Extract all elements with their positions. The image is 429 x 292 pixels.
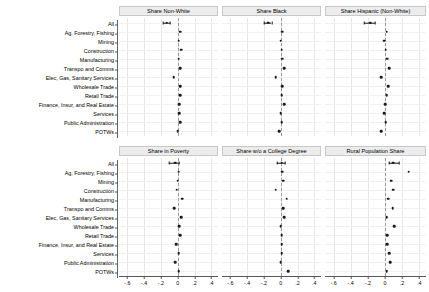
- confidence-interval-cap: [170, 21, 171, 24]
- y-axis-category-label: POTWs: [95, 131, 114, 136]
- y-axis-category-label: Transpo and Comms: [64, 67, 114, 72]
- data-point-marker: [274, 188, 277, 191]
- confidence-interval-cap: [374, 21, 375, 24]
- x-axis-tick-label: 0: [176, 280, 179, 286]
- zero-reference-line: [178, 18, 180, 136]
- panel-share-in-poverty: Share in Poverty -.6-.4-.20.2.4: [119, 146, 218, 286]
- data-point-marker: [279, 39, 282, 42]
- confidence-interval-cap: [264, 21, 265, 24]
- data-point-marker: [179, 94, 182, 97]
- y-axis-tick: [115, 228, 118, 229]
- y-axis-category-label: Construction: [84, 49, 114, 54]
- x-axis: -.6-.4-.20.2.4: [119, 276, 218, 288]
- x-axis-tick: [367, 276, 368, 279]
- y-axis-category-label: POTWs: [95, 271, 114, 276]
- x-axis-tick-label: .2: [192, 280, 196, 286]
- data-point-marker: [408, 170, 411, 173]
- plot-area: [119, 158, 218, 276]
- y-axis-tick: [115, 200, 118, 201]
- data-point-marker: [172, 76, 175, 79]
- data-point-marker: [180, 216, 183, 219]
- confidence-interval-cap: [162, 21, 163, 24]
- panel-title: Share Hispanic (Non-White): [325, 6, 426, 16]
- y-axis-tick: [115, 264, 118, 265]
- data-point-marker: [174, 261, 177, 264]
- x-axis-tick: [350, 276, 351, 279]
- data-point-marker: [280, 48, 283, 51]
- x-axis-tick: [280, 276, 281, 279]
- data-point-marker: [279, 225, 282, 228]
- y-axis-tick: [115, 273, 118, 274]
- plot-area: [222, 158, 321, 276]
- data-point-marker: [392, 161, 395, 164]
- x-axis-tick: [127, 276, 128, 279]
- y-axis-tick: [115, 209, 118, 210]
- coefficient-plot-figure: AllAg, Forestry, FishingMiningConstructi…: [0, 0, 429, 292]
- data-point-marker: [176, 130, 179, 133]
- data-point-marker: [178, 225, 181, 228]
- y-axis-tick: [115, 133, 118, 134]
- y-axis-tick: [115, 33, 118, 34]
- confidence-interval-cap: [169, 161, 170, 164]
- data-point-marker: [391, 207, 394, 210]
- data-point-marker: [380, 130, 383, 133]
- confidence-interval-cap: [277, 161, 278, 164]
- data-point-marker: [278, 130, 281, 133]
- panel-row-bottom: AllAg, Forestry, FishingMiningConstructi…: [0, 146, 429, 286]
- y-axis-tick: [115, 51, 118, 52]
- data-point-marker: [389, 261, 392, 264]
- data-point-marker: [174, 161, 177, 164]
- x-axis-tick-label: 0: [279, 280, 282, 286]
- x-axis-tick-label: -.2: [158, 280, 164, 286]
- y-axis-category-label: Retail Trade: [85, 234, 114, 239]
- data-point-marker: [173, 207, 176, 210]
- y-axis-labels-bottom: AllAg, Forestry, FishingMiningConstructi…: [0, 160, 118, 278]
- data-point-marker: [179, 67, 182, 70]
- data-point-marker: [179, 85, 182, 88]
- data-point-marker: [384, 121, 387, 124]
- y-axis-tick: [115, 24, 118, 25]
- data-point-marker: [280, 234, 283, 237]
- data-point-marker: [369, 21, 372, 24]
- data-point-marker: [392, 188, 395, 191]
- x-axis-tick-label: -.4: [141, 280, 147, 286]
- x-axis-tick: [230, 276, 231, 279]
- data-point-marker: [285, 198, 288, 201]
- y-axis-category-label: Finance, Insur, and Real Estate: [39, 104, 114, 109]
- x-axis-tick: [144, 276, 145, 279]
- confidence-interval-cap: [364, 21, 365, 24]
- y-axis-category-label: Wholesale Trade: [74, 225, 114, 230]
- y-axis-category-label: Construction: [84, 189, 114, 194]
- plot-area: [222, 18, 321, 136]
- data-point-marker: [177, 170, 180, 173]
- confidence-interval-cap: [178, 161, 179, 164]
- data-point-marker: [385, 270, 388, 273]
- x-axis-tick: [297, 276, 298, 279]
- data-point-marker: [177, 58, 180, 61]
- y-axis-tick: [115, 115, 118, 116]
- y-axis-tick: [115, 255, 118, 256]
- data-point-marker: [281, 30, 284, 33]
- confidence-interval-cap: [389, 161, 390, 164]
- x-axis-tick-label: -.2: [261, 280, 267, 286]
- x-axis-tick-label: .2: [400, 280, 404, 286]
- panel-rural-population-share: Rural Population Share -.6-.4-.20.2.4: [325, 146, 426, 286]
- y-axis-category-label: Ag, Forestry, Fishing: [65, 31, 114, 36]
- y-axis-tick: [115, 191, 118, 192]
- x-axis-tick-label: .2: [295, 280, 299, 286]
- data-point-marker: [280, 252, 283, 255]
- x-axis-tick: [314, 276, 315, 279]
- y-axis-tick: [115, 237, 118, 238]
- plot-area: [119, 18, 218, 136]
- x-axis-tick: [211, 276, 212, 279]
- y-axis-tick: [115, 164, 118, 165]
- y-axis-category-label: Services: [93, 253, 114, 258]
- y-axis-category-label: Mining: [98, 40, 114, 45]
- data-point-marker: [175, 243, 178, 246]
- y-axis-tick: [115, 88, 118, 89]
- data-point-marker: [179, 234, 182, 237]
- x-axis-tick-label: -.2: [365, 280, 371, 286]
- plot-area: [325, 18, 426, 136]
- data-point-marker: [386, 243, 389, 246]
- x-axis-tick: [194, 276, 195, 279]
